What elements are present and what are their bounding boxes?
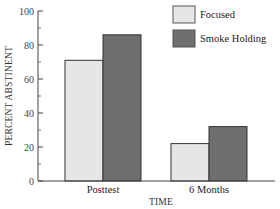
legend-swatch	[173, 30, 195, 47]
x-category-label: 6 Months	[189, 184, 229, 195]
legend-label: Focused	[200, 9, 236, 20]
x-axis-title: TIME	[149, 197, 173, 207]
legend: FocusedSmoke Holding	[173, 6, 267, 47]
bars	[65, 35, 247, 181]
bar-chart: 020406080100 Posttest6 Months FocusedSmo…	[0, 0, 280, 209]
y-tick-label: 60	[24, 74, 34, 85]
legend-swatch	[173, 6, 195, 23]
bar-smoke-holding-6-months	[209, 127, 247, 181]
y-tick-label: 80	[24, 40, 34, 51]
y-axis: 020406080100	[19, 6, 43, 187]
y-tick-label: 0	[29, 176, 34, 187]
x-axis: Posttest6 Months	[38, 181, 275, 195]
y-axis-title: PERCENT ABSTINENT	[4, 46, 14, 146]
y-tick-label: 40	[24, 108, 34, 119]
bar-focused-posttest	[65, 60, 103, 181]
bar-focused-6-months	[171, 144, 209, 181]
bar-smoke-holding-posttest	[103, 35, 141, 181]
y-tick-label: 20	[24, 142, 34, 153]
x-category-label: Posttest	[87, 184, 120, 195]
y-tick-label: 100	[19, 6, 34, 17]
legend-label: Smoke Holding	[200, 33, 267, 44]
